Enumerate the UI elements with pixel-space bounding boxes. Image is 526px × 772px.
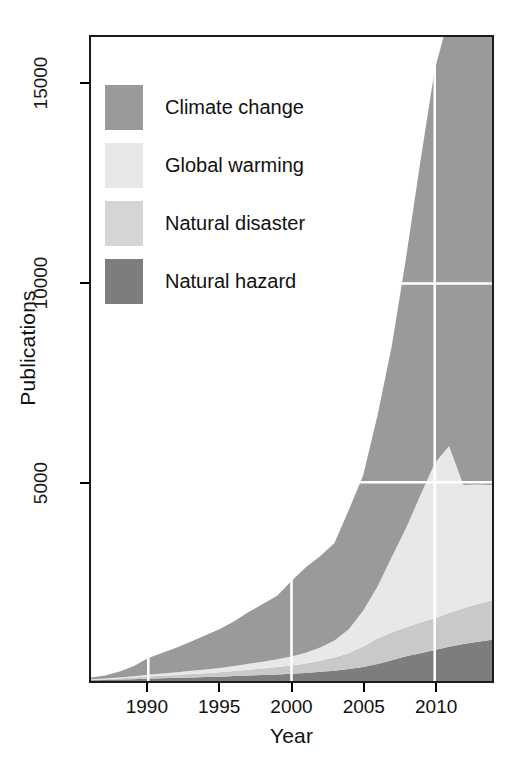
legend: Climate changeGlobal warmingNatural disa…	[105, 78, 305, 310]
x-tick-mark	[363, 683, 365, 692]
y-tick-label: 5000	[6, 471, 76, 495]
legend-label: Natural disaster	[165, 212, 305, 235]
legend-swatch	[105, 143, 143, 188]
x-tick-mark	[218, 683, 220, 692]
y-tick-mark	[80, 82, 89, 84]
legend-item: Global warming	[105, 136, 305, 194]
legend-swatch	[105, 201, 143, 246]
x-tick-label: 2010	[391, 696, 481, 718]
x-tick-mark	[146, 683, 148, 692]
legend-label: Global warming	[165, 154, 304, 177]
legend-item: Natural disaster	[105, 194, 305, 252]
chart-figure: Publications Year 50001000015000 1990199…	[0, 0, 526, 772]
x-axis-title: Year	[89, 724, 494, 748]
x-tick-mark	[291, 683, 293, 692]
legend-item: Climate change	[105, 78, 305, 136]
legend-label: Natural hazard	[165, 270, 296, 293]
legend-swatch	[105, 85, 143, 130]
y-tick-mark	[80, 282, 89, 284]
legend-label: Climate change	[165, 96, 304, 119]
x-tick-mark	[435, 683, 437, 692]
y-tick-label: 10000	[6, 271, 76, 295]
y-tick-mark	[80, 482, 89, 484]
legend-swatch	[105, 259, 143, 304]
legend-item: Natural hazard	[105, 252, 305, 310]
y-tick-label: 15000	[6, 71, 76, 95]
